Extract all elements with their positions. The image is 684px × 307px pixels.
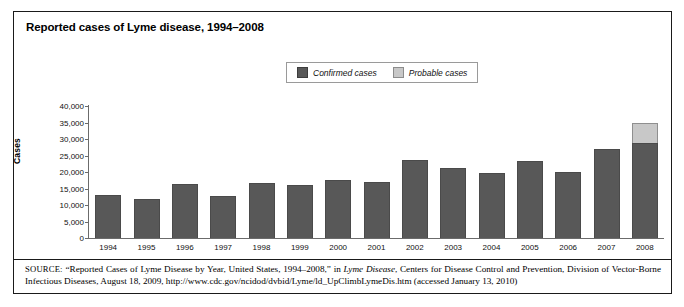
bar-column xyxy=(287,185,313,238)
bar-segment-probable xyxy=(632,123,658,143)
bar-segment-confirmed xyxy=(632,143,658,238)
source-publication-title: Lyme Disease xyxy=(344,264,395,274)
y-axis-tick-label: 10,000 xyxy=(40,201,84,210)
y-axis-tick-label: 25,000 xyxy=(40,151,84,160)
bar-segment-confirmed xyxy=(517,161,543,238)
bar-segment-confirmed xyxy=(479,173,505,238)
bar-segment-confirmed xyxy=(172,184,198,238)
bar-column xyxy=(364,182,390,238)
figure-frame: Reported cases of Lyme disease, 1994–200… xyxy=(13,11,672,294)
bar-column xyxy=(210,196,236,238)
bar-column xyxy=(325,180,351,238)
y-axis-title: Cases xyxy=(12,138,22,164)
source-text-part1: “Reported Cases of Lyme Disease by Year,… xyxy=(63,264,344,274)
y-axis-tick-label: 35,000 xyxy=(40,118,84,127)
bar-column xyxy=(95,195,121,238)
bar-column xyxy=(594,149,620,238)
y-axis-tick-mark xyxy=(85,238,89,239)
source-label: SOURCE: xyxy=(25,264,63,274)
x-axis-line xyxy=(88,238,664,239)
bar-segment-confirmed xyxy=(249,183,275,238)
bar-column xyxy=(479,173,505,238)
bar-segment-confirmed xyxy=(95,195,121,238)
bar-column xyxy=(134,199,160,238)
y-axis-tick-label: 30,000 xyxy=(40,135,84,144)
bar-segment-confirmed xyxy=(402,160,428,238)
bar-column xyxy=(249,183,275,238)
y-axis-tick-label: 15,000 xyxy=(40,184,84,193)
y-axis-tick-label: 20,000 xyxy=(40,168,84,177)
bar-segment-confirmed xyxy=(440,168,466,238)
bar-segment-confirmed xyxy=(555,172,581,238)
bar-segment-confirmed xyxy=(325,180,351,238)
bar-segment-confirmed xyxy=(594,149,620,238)
y-axis-tick-label: 5,000 xyxy=(40,217,84,226)
plot-area: Cases 05,00010,00015,00020,00025,00030,0… xyxy=(14,12,673,295)
bar-segment-confirmed xyxy=(134,199,160,238)
bar-series-layer xyxy=(89,106,664,238)
bar-column xyxy=(555,172,581,238)
source-divider xyxy=(14,259,671,260)
bar-column xyxy=(632,123,658,238)
bar-column xyxy=(402,160,428,238)
bar-segment-confirmed xyxy=(210,196,236,238)
source-note: SOURCE: “Reported Cases of Lyme Disease … xyxy=(25,263,661,288)
bar-column xyxy=(172,184,198,238)
y-axis-tick-label: 0 xyxy=(40,234,84,243)
bar-column xyxy=(440,168,466,238)
x-axis-tick-label: 2008 xyxy=(622,243,668,252)
bar-segment-confirmed xyxy=(287,185,313,238)
bar-column xyxy=(517,161,543,238)
bar-segment-confirmed xyxy=(364,182,390,238)
y-axis-tick-label: 40,000 xyxy=(40,102,84,111)
